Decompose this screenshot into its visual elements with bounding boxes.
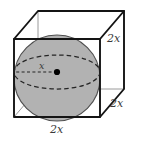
sphere-center-dot [54,69,60,75]
figure-canvas [0,0,150,144]
label-depth-edge: 2x [110,98,123,109]
inscribed-sphere [14,35,100,121]
label-radius: x [39,61,44,71]
label-side-edge: 2x [107,33,120,44]
label-bottom-edge: 2x [50,124,63,135]
geometry-figure: 2x 2x 2x x [0,0,150,144]
